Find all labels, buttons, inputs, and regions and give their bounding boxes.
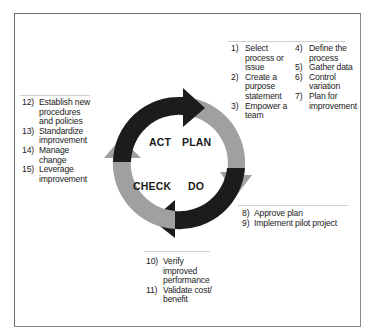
step-item: 9)Implement pilot project — [242, 219, 342, 229]
act-steps: 12)Establish new procedures and policies… — [22, 98, 94, 184]
check-steps: 10)Verify improved performance 11)Valida… — [146, 257, 212, 305]
plan-steps-rule — [228, 41, 345, 42]
step-item: 12)Establish new procedures and policies — [22, 98, 94, 127]
step-item: 4)Define the process — [295, 44, 363, 63]
step-item: 15)Leverage improvement — [22, 165, 94, 184]
label-act: ACT — [149, 136, 171, 148]
step-item: 6)Control variation — [295, 73, 363, 92]
step-item: 7)Plan for improvement — [295, 92, 363, 111]
do-steps: 8)Approve plan 9)Implement pilot project — [242, 209, 342, 228]
label-check: CHECK — [133, 180, 171, 192]
step-item: 10)Verify improved performance — [146, 257, 212, 286]
label-plan: PLAN — [182, 136, 211, 148]
plan-steps-col1: 1)Select process or issue 2)Create a pur… — [231, 44, 293, 121]
step-item: 11)Validate cost/ benefit — [146, 286, 212, 305]
act-steps-rule — [20, 95, 90, 96]
step-item: 2)Create a purpose statement — [231, 73, 293, 102]
label-do: DO — [188, 180, 204, 192]
step-item: 13)Standardize improvement — [22, 127, 94, 146]
plan-steps-col2: 4)Define the process 5)Gather data 6)Con… — [295, 44, 363, 111]
check-steps-rule — [144, 251, 210, 252]
do-steps-rule — [238, 205, 348, 206]
step-item: 3)Empower a team — [231, 102, 293, 121]
step-item: 1)Select process or issue — [231, 44, 293, 73]
act-arc — [113, 88, 205, 162]
step-item: 14)Manage change — [22, 146, 94, 165]
